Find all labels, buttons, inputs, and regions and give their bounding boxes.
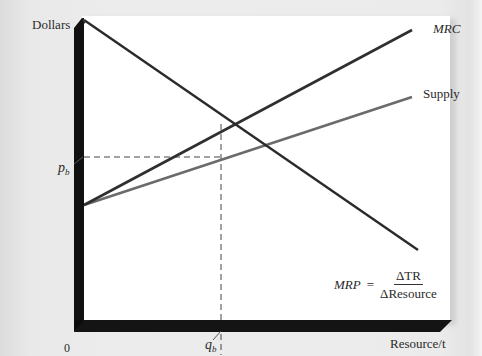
origin-label: 0 bbox=[64, 341, 70, 356]
y-axis-label: Dollars bbox=[32, 17, 70, 33]
x-axis-bar bbox=[74, 320, 452, 332]
mrp-numerator: ΔTR bbox=[394, 269, 423, 285]
mrp-formula: MRP = ΔTR ΔResource bbox=[334, 269, 437, 301]
pb-label: pb bbox=[58, 160, 70, 177]
y-axis-bar bbox=[74, 18, 84, 332]
mrp-denominator: ΔResource bbox=[380, 285, 437, 301]
supply-label: Supply bbox=[423, 86, 460, 102]
x-axis-label: Resource/t bbox=[390, 336, 446, 352]
qb-label: qb bbox=[205, 337, 217, 354]
mrp-fraction: ΔTR ΔResource bbox=[380, 269, 437, 301]
mrc-label: MRC bbox=[433, 21, 460, 37]
mrp-label: MRP bbox=[334, 277, 361, 293]
